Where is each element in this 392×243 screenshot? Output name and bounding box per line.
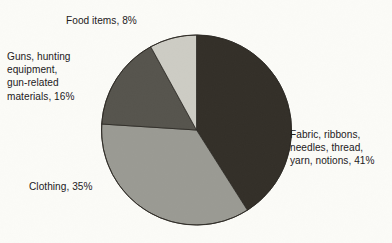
pie-chart-graphic xyxy=(0,0,392,243)
pie-label-guns: Guns, hunting equipment, gun-related mat… xyxy=(7,50,74,103)
pie-label-food-items: Food items, 8% xyxy=(66,14,137,27)
pie-label-fabric: Fabric, ribbons, needles, thread, yarn, … xyxy=(290,128,375,168)
paper-grain-overlay xyxy=(0,0,392,243)
pie-label-clothing: Clothing, 35% xyxy=(29,180,93,193)
pie-chart-figure: Food items, 8% Guns, hunting equipment, … xyxy=(0,0,392,243)
